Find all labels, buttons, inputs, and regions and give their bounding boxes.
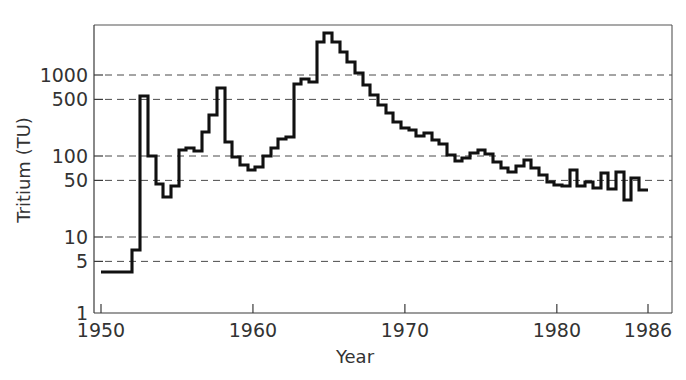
y-tick-label: 500 (52, 88, 88, 110)
tritium-time-series-chart: 1000500100501051 19501960197019801986 Ye… (0, 0, 686, 380)
data-series-group (101, 33, 648, 272)
y-tick-labels: 1000500100501051 (40, 64, 88, 324)
x-axis-title: Year (335, 346, 375, 367)
plot-frame (94, 25, 672, 313)
y-tick-label: 10 (64, 226, 88, 248)
y-tick-label: 1000 (40, 64, 88, 86)
tritium-step-line (101, 33, 648, 272)
x-tick-label: 1960 (229, 319, 277, 341)
y-tick-label: 5 (76, 250, 88, 272)
y-axis-title: Tritium (TU) (13, 117, 34, 224)
x-tick-label: 1970 (381, 319, 429, 341)
x-tick-label: 1950 (77, 319, 125, 341)
y-gridlines-and-ticks (94, 75, 672, 261)
figure-container: 1000500100501051 19501960197019801986 Ye… (0, 0, 686, 380)
y-tick-label: 50 (64, 169, 88, 191)
x-tick-labels: 19501960197019801986 (77, 319, 672, 341)
x-tick-label: 1986 (624, 319, 672, 341)
x-ticks (101, 304, 648, 313)
x-tick-label: 1980 (533, 319, 581, 341)
y-tick-label: 100 (52, 145, 88, 167)
